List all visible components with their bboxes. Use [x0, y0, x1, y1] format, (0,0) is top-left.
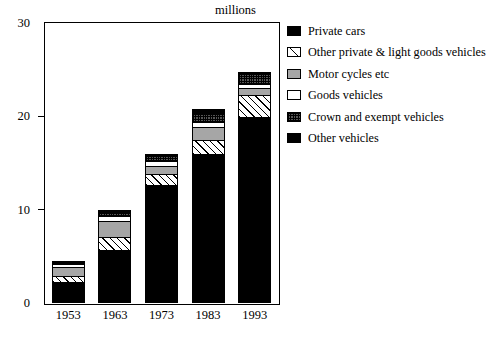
legend-item-4[interactable]: Crown and exempt vehicles	[287, 106, 501, 128]
bar-1963	[98, 210, 131, 303]
legend-swatch-icon	[287, 90, 301, 100]
bar-segment	[99, 251, 130, 303]
bar-segment	[53, 263, 84, 265]
legend-item-1[interactable]: Other private & light goods vehicles	[287, 42, 501, 64]
bar-segment	[146, 157, 177, 162]
legend-label: Crown and exempt vehicles	[308, 111, 444, 123]
bar-segment	[193, 155, 224, 303]
bar-segment	[193, 110, 224, 114]
chart-root: millions 0102030 19531963197319831993 Pr…	[0, 0, 504, 347]
bar-segment	[99, 217, 130, 222]
bar-segment	[146, 175, 177, 186]
bar-segment	[146, 167, 177, 175]
bar-1983	[192, 109, 225, 303]
bar-segment	[53, 265, 84, 269]
legend-label: Other private & light goods vehicles	[308, 46, 486, 58]
legend-item-0[interactable]: Private cars	[287, 20, 501, 42]
bar-segment	[239, 73, 270, 76]
bar-segment	[99, 238, 130, 251]
bar-segment	[53, 262, 84, 263]
y-axis-label: 10	[4, 203, 30, 216]
bar-segment	[146, 186, 177, 303]
y-axis-label: 0	[4, 297, 30, 310]
legend-label: Private cars	[308, 25, 365, 37]
x-axis-label-1973: 1973	[138, 309, 186, 322]
bar-segment	[239, 85, 270, 90]
bar-segment	[146, 162, 177, 167]
bar-segment	[239, 75, 270, 84]
legend-item-2[interactable]: Motor cycles etc	[287, 63, 501, 85]
legend-label: Other vehicles	[308, 132, 379, 144]
bar-segment	[146, 155, 177, 158]
bar-segment	[239, 89, 270, 96]
legend-swatch-icon	[287, 47, 301, 57]
legend-swatch-icon	[287, 26, 301, 36]
y-axis-label: 20	[4, 110, 30, 123]
bar-segment	[53, 268, 84, 276]
units-label: millions	[215, 4, 256, 17]
x-axis-label-1993: 1993	[231, 309, 279, 322]
x-axis-label-1983: 1983	[184, 309, 232, 322]
bar-1993	[238, 72, 271, 303]
legend-swatch-icon	[287, 69, 301, 79]
legend-label: Goods vehicles	[308, 89, 383, 101]
bar-segment	[239, 96, 270, 118]
y-axis-label: 30	[4, 17, 30, 30]
bar-1973	[145, 154, 178, 303]
bar-segment	[99, 211, 130, 215]
legend-label: Motor cycles etc	[308, 68, 389, 80]
legend: Private carsOther private & light goods …	[287, 20, 501, 149]
x-axis-label-1953: 1953	[44, 309, 92, 322]
legend-swatch-icon	[287, 112, 301, 122]
bar-segment	[239, 118, 270, 303]
bar-segment	[193, 128, 224, 141]
legend-item-3[interactable]: Goods vehicles	[287, 85, 501, 107]
bar-segment	[53, 283, 84, 303]
bar-segment	[99, 222, 130, 239]
bar-segment	[193, 141, 224, 156]
x-axis-label-1963: 1963	[91, 309, 139, 322]
bar-segment	[193, 114, 224, 123]
bar-segment	[99, 214, 130, 217]
bar-segment	[193, 123, 224, 128]
bar-1953	[52, 261, 85, 303]
legend-item-5[interactable]: Other vehicles	[287, 128, 501, 150]
legend-swatch-icon	[287, 133, 301, 143]
bar-segment	[53, 277, 84, 283]
bars-layer	[45, 23, 278, 303]
